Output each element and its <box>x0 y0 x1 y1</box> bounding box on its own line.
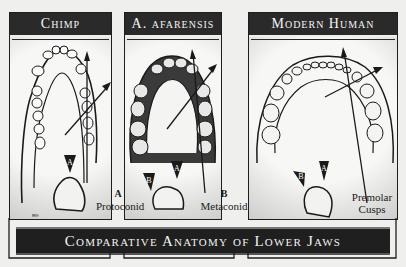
banner-title: Comparative Anatomy of Lower Jaws <box>65 233 341 250</box>
cusps-label: Cusps <box>348 203 396 215</box>
protoconid-label: Protoconid <box>96 200 140 212</box>
metaconid-label: Metaconid <box>198 200 250 212</box>
protoconid-marker: A <box>96 188 140 200</box>
title-banner: Comparative Anatomy of Lower Jaws <box>16 227 390 255</box>
legend-metaconid: B Metaconid <box>198 188 250 212</box>
svg-text:A: A <box>321 164 327 173</box>
svg-text:B: B <box>298 172 303 181</box>
artist-signature: MH <box>32 213 38 218</box>
panel-modern-human: Modern Human B A <box>248 12 398 220</box>
human-jaw-illustration: B A <box>249 13 397 219</box>
legend-premolar-cusps: Premolar Cusps <box>348 191 396 215</box>
legend-protoconid: A Protoconid <box>96 188 140 212</box>
premolar-label: Premolar <box>348 191 396 203</box>
svg-text:A: A <box>67 158 73 167</box>
svg-text:B: B <box>146 176 151 185</box>
metaconid-marker: B <box>198 188 250 200</box>
svg-text:A: A <box>174 164 180 173</box>
